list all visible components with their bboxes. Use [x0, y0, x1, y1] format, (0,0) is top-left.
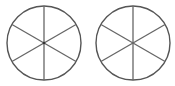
sector-divider-line	[12, 25, 44, 44]
right-circle-divided-six	[96, 6, 170, 80]
sector-divider-line	[44, 25, 76, 44]
sector-divider-line	[133, 25, 165, 44]
sector-divider-line	[44, 43, 76, 62]
sector-divider-line	[133, 43, 165, 62]
center-dot	[43, 42, 46, 45]
sector-divider-line	[101, 25, 133, 44]
sector-divider-line	[12, 43, 44, 62]
sector-divider-line	[101, 43, 133, 62]
diagram-canvas	[0, 0, 175, 86]
left-circle-divided-six	[7, 6, 81, 80]
